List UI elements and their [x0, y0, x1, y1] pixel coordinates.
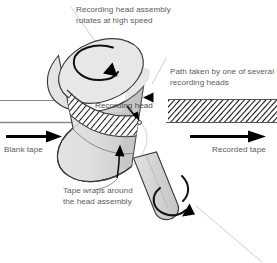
- label-assembly-line2: rotates at high speed: [76, 16, 153, 25]
- label-assembly: Recording head assembly rotates at high …: [76, 5, 172, 25]
- leader-path: [152, 58, 167, 85]
- label-head-path-line2: recording heads: [170, 78, 229, 87]
- label-recording-head: Recording head: [95, 101, 153, 110]
- label-tape-wrap-line1: Tape wraps around: [63, 186, 133, 195]
- label-tape-wrap-line2: the head assembly: [63, 197, 133, 206]
- label-tape-wrap: Tape wraps around the head assembly: [63, 186, 133, 206]
- label-blank-tape: Blank tape: [4, 145, 43, 154]
- recorded-tape-direction-arrow: [190, 131, 266, 143]
- label-recorded-tape: Recorded tape: [212, 145, 266, 154]
- label-assembly-line1: Recording head assembly: [76, 5, 172, 14]
- drive-shaft: [134, 152, 179, 220]
- diagram-canvas: Recording head assembly rotates at high …: [0, 0, 277, 263]
- label-head-path-line1: Path taken by one of several: [170, 67, 274, 76]
- label-head-path: Path taken by one of several recording h…: [170, 67, 274, 87]
- blank-tape-direction-arrow: [6, 131, 62, 143]
- recorded-tape-path: [166, 99, 277, 123]
- leader-shaft-rotation: [196, 206, 262, 262]
